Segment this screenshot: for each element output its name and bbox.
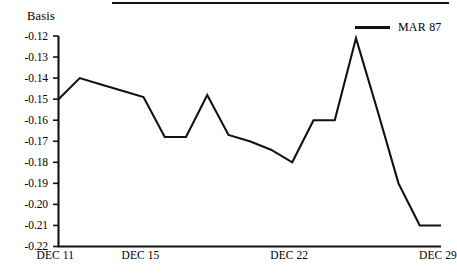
data-line-mar-87	[59, 38, 442, 225]
legend-line-swatch	[355, 26, 390, 28]
x-axis-tick-label: DEC 15	[122, 249, 160, 262]
x-axis-tick-label: DEC 22	[270, 249, 308, 262]
legend: MAR 87	[355, 21, 442, 34]
x-axis-tick-label: DEC 11	[37, 249, 75, 262]
legend-label-mar-87: MAR 87	[398, 21, 442, 34]
x-axis-tick-label: DEC 29	[419, 249, 457, 262]
